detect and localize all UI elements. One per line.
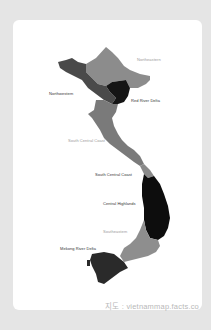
label-southeastern: Southeastern	[103, 229, 127, 234]
region-central-highlands[interactable]	[142, 174, 170, 240]
phu-quoc-island	[87, 260, 90, 266]
label-red-river-delta: Red River Delta	[131, 98, 160, 103]
map-source-credit: 지도 : vietnammap.facts.co	[105, 300, 199, 311]
label-mekong-river-delta: Mekong River Delta	[60, 246, 96, 251]
label-northeastern: Northeastern	[137, 57, 161, 62]
region-north-central-coast[interactable]	[88, 100, 144, 166]
label-northwestern: Northwestern	[49, 91, 73, 96]
label-south-central-coast: South Central Coast	[95, 172, 132, 177]
label-north-central-coast: South Central Coast	[68, 138, 105, 143]
vietnam-regions-map	[0, 0, 211, 330]
region-south-central-coast[interactable]	[140, 164, 154, 178]
label-central-highlands: Central Highlands	[103, 201, 136, 206]
